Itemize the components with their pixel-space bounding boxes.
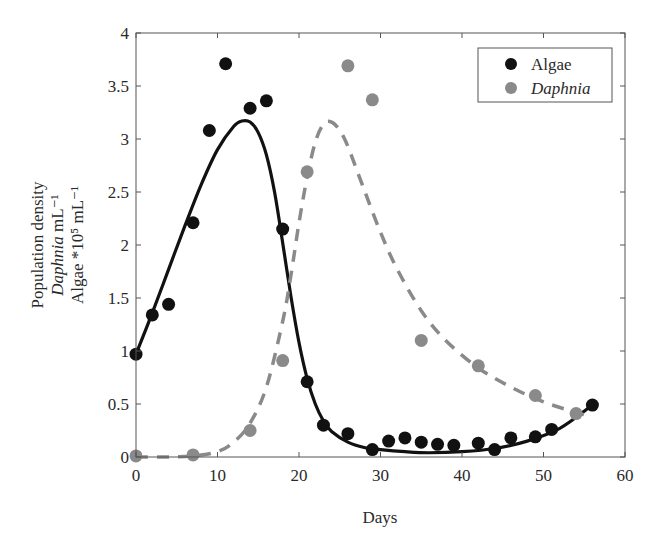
algae-data-point xyxy=(203,124,216,137)
algae-data-point xyxy=(341,427,354,440)
x-tick-label: 20 xyxy=(291,466,308,485)
algae-data-point xyxy=(504,431,517,444)
algae-data-point xyxy=(529,430,542,443)
x-tick-label: 60 xyxy=(617,466,634,485)
x-tick-label: 50 xyxy=(535,466,552,485)
algae-data-point xyxy=(382,435,395,448)
population-chart: 0102030405060 00.511.522.533.54 Days Pop… xyxy=(0,0,654,543)
algae-data-point xyxy=(398,431,411,444)
y-axis-title-line: Population density xyxy=(28,181,47,309)
algae-data-point xyxy=(260,94,273,107)
algae-data-point xyxy=(366,443,379,456)
daphnia-data-point xyxy=(341,59,354,72)
algae-data-point xyxy=(146,308,159,321)
algae-data-point xyxy=(301,375,314,388)
daphnia-data-point xyxy=(301,165,314,178)
x-tick-label: 0 xyxy=(132,466,141,485)
y-tick-label: 0.5 xyxy=(108,395,129,414)
x-axis-title: Days xyxy=(363,508,398,527)
y-axis-title: Population densityDaphnia mL⁻¹Algae *10⁵… xyxy=(28,181,87,309)
x-tick-label: 30 xyxy=(372,466,389,485)
algae-data-point xyxy=(586,399,599,412)
daphnia-data-point xyxy=(276,354,289,367)
y-tick-label: 2.5 xyxy=(108,183,129,202)
y-tick-label: 1 xyxy=(121,342,130,361)
algae-data-point xyxy=(447,439,460,452)
daphnia-model-curve xyxy=(136,121,592,457)
legend-label: Algae xyxy=(531,55,572,74)
x-tick-label: 10 xyxy=(209,466,226,485)
daphnia-data-point xyxy=(366,93,379,106)
algae-data-point xyxy=(415,436,428,449)
y-axis-title-line: Daphnia mL⁻¹ xyxy=(48,194,67,296)
algae-data-point xyxy=(244,102,257,115)
algae-data-point xyxy=(472,437,485,450)
algae-model-curve xyxy=(136,120,592,452)
algae-data-point xyxy=(219,57,232,70)
data-points xyxy=(130,57,599,462)
algae-data-point xyxy=(162,298,175,311)
algae-data-point xyxy=(276,223,289,236)
daphnia-data-point xyxy=(244,424,257,437)
x-tick-label: 40 xyxy=(454,466,471,485)
y-tick-label: 3.5 xyxy=(108,77,129,96)
daphnia-data-point xyxy=(415,334,428,347)
legend-marker-icon xyxy=(505,82,517,94)
algae-data-point xyxy=(317,419,330,432)
y-tick-label: 0 xyxy=(121,448,130,467)
y-tick-label: 2 xyxy=(121,236,130,255)
legend-marker-icon xyxy=(505,58,517,70)
y-tick-label: 1.5 xyxy=(108,289,129,308)
daphnia-data-point xyxy=(529,389,542,402)
fitted-curves xyxy=(136,120,592,457)
y-axis-title-line: Algae *10⁵ mL⁻¹ xyxy=(68,186,87,304)
legend-label: Daphnia xyxy=(530,79,591,98)
algae-data-point xyxy=(187,216,200,229)
y-tick-label: 4 xyxy=(121,24,130,43)
y-tick-label: 3 xyxy=(121,130,130,149)
daphnia-data-point xyxy=(187,448,200,461)
algae-data-point xyxy=(431,438,444,451)
algae-data-point xyxy=(545,423,558,436)
daphnia-data-point xyxy=(472,359,485,372)
daphnia-data-point xyxy=(570,407,583,420)
algae-data-point xyxy=(488,443,501,456)
legend: AlgaeDaphnia xyxy=(478,48,612,102)
